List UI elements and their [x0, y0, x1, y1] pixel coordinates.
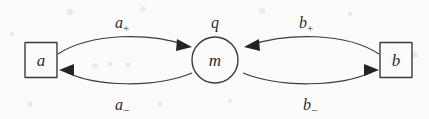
node-b-label: b	[392, 51, 401, 70]
transition-diagram: a m b q a+ a− b+	[0, 0, 429, 119]
svg-text:a+: a+	[115, 14, 129, 34]
edge-label-b-minus: b−	[303, 96, 317, 116]
node-m[interactable]: m	[192, 37, 238, 83]
edge-label-a-minus-base: a	[115, 96, 123, 113]
node-a[interactable]: a	[25, 43, 57, 78]
edge-label-a-plus-sub: +	[123, 22, 129, 34]
edge-a-plus	[58, 37, 192, 54]
annotation-q: q	[211, 14, 219, 32]
diagram-canvas: a m b q a+ a− b+	[0, 0, 429, 119]
edge-label-a-minus: a−	[115, 96, 129, 116]
svg-text:a−: a−	[115, 96, 129, 116]
node-b[interactable]: b	[380, 43, 412, 78]
edge-label-b-plus-sub: +	[307, 22, 313, 34]
edge-label-a-plus: a+	[115, 14, 129, 34]
node-m-label: m	[209, 51, 221, 70]
edge-label-b-plus: b+	[299, 14, 313, 34]
svg-text:b−: b−	[303, 96, 317, 116]
edge-b-minus	[243, 64, 379, 84]
node-a-label: a	[37, 51, 46, 70]
edge-b-plus	[244, 37, 379, 54]
edge-label-a-minus-sub: −	[123, 104, 129, 116]
svg-text:b+: b+	[299, 14, 313, 34]
edge-label-b-minus-base: b	[303, 96, 311, 113]
edge-label-b-minus-sub: −	[311, 104, 317, 116]
edge-a-minus	[59, 64, 192, 84]
edge-label-a-plus-base: a	[115, 14, 123, 31]
edge-label-b-plus-base: b	[299, 14, 307, 31]
